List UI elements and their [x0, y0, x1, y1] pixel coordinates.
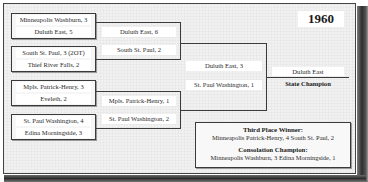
frame-shadow-bottom [4, 175, 366, 182]
tournament-year: 1960 [298, 11, 344, 27]
champion-team: Duluth East [272, 67, 344, 76]
sf1-team2: South St. Paul, 2 [102, 45, 176, 55]
champion-label: State Champion [272, 79, 344, 88]
awards-box: Third Place Winner: Minneapolis Patrick-… [195, 122, 351, 168]
frame-shadow-right [357, 6, 368, 182]
quarterfinal-box-4: St. Paul Washington, 4 Edina Morningside… [11, 114, 96, 140]
qf2-team1: South St. Paul, 3 (2OT) [16, 48, 91, 58]
champion-line [267, 77, 349, 78]
consolation-heading: Consolation Champion: [196, 146, 350, 154]
qf4-team1: St. Paul Washington, 4 [16, 116, 91, 126]
qf4-team2: Edina Morningside, 3 [16, 128, 91, 138]
sf2-team2: St. Paul Washington, 2 [102, 114, 176, 124]
quarterfinal-box-3: Mpls. Patrick-Henry, 3 Eveleth, 2 [11, 80, 96, 106]
qf3-team1: Mpls. Patrick-Henry, 3 [16, 82, 91, 92]
consolation-result: Minneapolis Washburn, 3 Edina Morningsid… [196, 154, 350, 162]
qf1-team2: Duluth East, 5 [16, 27, 91, 37]
sf2-team1: Mpls. Patrick-Henry, 1 [102, 96, 176, 106]
qf2-team2: Thief River Falls, 2 [16, 60, 91, 70]
third-place-heading: Third Place Winner: [196, 126, 350, 134]
qf1-team1: Minneapolis Washburn, 3 [16, 15, 91, 25]
final-team2: St. Paul Washington, 1 [186, 80, 262, 90]
quarterfinal-box-2: South St. Paul, 3 (2OT) Thief River Fall… [11, 46, 96, 72]
quarterfinal-box-1: Minneapolis Washburn, 3 Duluth East, 5 [11, 13, 96, 39]
final-team1: Duluth East, 3 [186, 61, 262, 71]
qf3-team2: Eveleth, 2 [16, 94, 91, 104]
third-place-result: Minneapolis Patrick-Henry, 4 South St. P… [196, 134, 350, 142]
sf1-team1: Duluth East, 6 [102, 27, 176, 37]
final-bracket [181, 43, 267, 111]
